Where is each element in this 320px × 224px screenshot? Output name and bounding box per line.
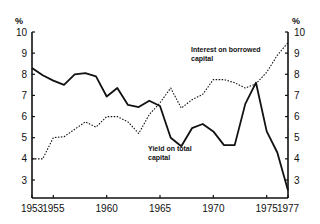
- x-tick-label: 1977: [277, 203, 300, 214]
- chart-series: [32, 43, 288, 191]
- x-tick-label: 1965: [149, 203, 172, 214]
- x-tick-label: 1955: [42, 203, 65, 214]
- y-tick-label-right: 4: [294, 153, 300, 164]
- y-tick-label-right: 6: [294, 111, 300, 122]
- y-tick-label-left: 4: [21, 153, 27, 164]
- yield-on-total-capital-label: capital: [148, 154, 170, 162]
- right-unit-label: %: [292, 16, 300, 26]
- y-tick-label-left: 9: [21, 48, 27, 59]
- interest-on-borrowed-capital-label: capital: [191, 55, 213, 63]
- y-tick-label-right: 8: [294, 69, 300, 80]
- y-tick-label-left: 8: [21, 69, 27, 80]
- x-tick-label: 1970: [202, 203, 225, 214]
- x-tick-label: 1953: [21, 203, 44, 214]
- y-tick-label-right: 7: [294, 90, 300, 101]
- left-unit-label: %: [15, 16, 23, 26]
- y-tick-label-left: 5: [21, 132, 27, 143]
- chart-labels: 334455667788991010%%19531955196019651970…: [15, 16, 306, 214]
- y-tick-label-right: 9: [294, 48, 300, 59]
- yield-on-total-capital-label: Yield on total: [148, 145, 192, 152]
- yield-on-total-capital-line: [32, 68, 288, 191]
- chart-axes: [32, 32, 288, 198]
- y-tick-label-right: 5: [294, 132, 300, 143]
- y-tick-label-left: 6: [21, 111, 27, 122]
- y-tick-label-left: 10: [16, 27, 28, 38]
- line-chart: 334455667788991010%%19531955196019651970…: [0, 0, 320, 224]
- interest-on-borrowed-capital-label: Interest on borrowed: [191, 46, 261, 53]
- y-tick-label-right: 10: [294, 27, 306, 38]
- interest-on-borrowed-capital-line: [32, 43, 288, 159]
- y-tick-label-right: 3: [294, 175, 300, 186]
- y-tick-label-left: 3: [21, 175, 27, 186]
- y-tick-label-left: 7: [21, 90, 27, 101]
- x-tick-label: 1960: [96, 203, 119, 214]
- x-tick-label: 1975: [256, 203, 279, 214]
